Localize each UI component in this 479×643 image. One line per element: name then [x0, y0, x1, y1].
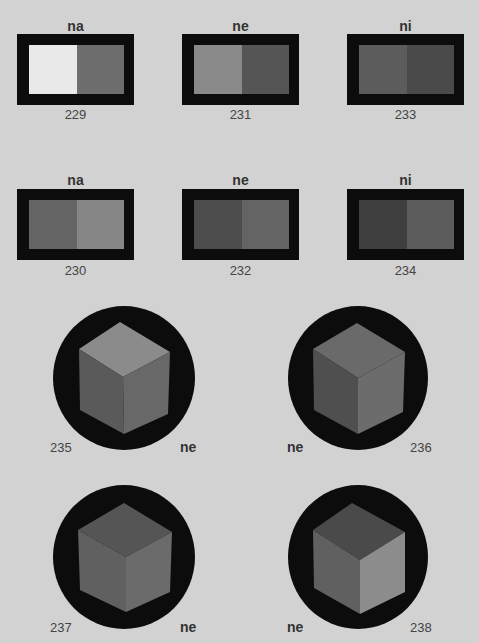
cube-figure-236	[287, 306, 430, 452]
swatch-left-half	[359, 200, 407, 249]
cube-in-circle-icon	[53, 485, 196, 631]
figure-number: 238	[410, 620, 432, 635]
cube-in-circle-icon	[53, 306, 196, 452]
swatch-title: ne	[182, 18, 299, 34]
color-swatch-230	[17, 189, 134, 260]
swatch-title: ni	[347, 18, 464, 34]
color-swatch-229	[17, 34, 134, 105]
color-swatch-232	[182, 189, 299, 260]
swatch-number: 231	[182, 107, 299, 122]
swatch-title: ne	[182, 172, 299, 188]
swatch-left-half	[194, 200, 242, 249]
swatch-number: 234	[347, 263, 464, 278]
swatch-right-half	[407, 45, 455, 94]
color-swatch-234	[347, 189, 464, 260]
swatch-left-half	[29, 45, 77, 94]
color-swatch-231	[182, 34, 299, 105]
cube-figure-238	[287, 485, 430, 631]
cube-figure-237	[53, 485, 196, 631]
swatch-number: 229	[17, 107, 134, 122]
swatch-right-half	[77, 200, 125, 249]
swatch-title: na	[17, 18, 134, 34]
figure-label: ne	[180, 619, 196, 635]
figure-label: ne	[287, 619, 303, 635]
figure-number: 236	[410, 440, 432, 455]
cube-in-circle-icon	[287, 485, 430, 631]
swatch-left-half	[359, 45, 407, 94]
figure-label: ne	[287, 439, 303, 455]
swatch-title: ni	[347, 172, 464, 188]
swatch-number: 230	[17, 263, 134, 278]
swatch-left-half	[194, 45, 242, 94]
cube-in-circle-icon	[287, 306, 430, 452]
swatch-title: na	[17, 172, 134, 188]
figure-number: 237	[50, 620, 72, 635]
swatch-number: 232	[182, 263, 299, 278]
color-swatch-233	[347, 34, 464, 105]
figure-number: 235	[50, 440, 72, 455]
figure-label: ne	[180, 439, 196, 455]
swatch-right-half	[407, 200, 455, 249]
swatch-number: 233	[347, 107, 464, 122]
swatch-right-half	[77, 45, 125, 94]
swatch-left-half	[29, 200, 77, 249]
cube-figure-235	[53, 306, 196, 452]
swatch-right-half	[242, 200, 290, 249]
swatch-right-half	[242, 45, 290, 94]
